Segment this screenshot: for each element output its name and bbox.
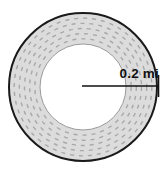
- track-diagram-figure: 0.2 mi: [0, 0, 168, 176]
- track-inner-edge: [40, 44, 126, 130]
- circular-track-graphic: [0, 0, 168, 176]
- radius-label: 0.2 mi: [88, 66, 159, 82]
